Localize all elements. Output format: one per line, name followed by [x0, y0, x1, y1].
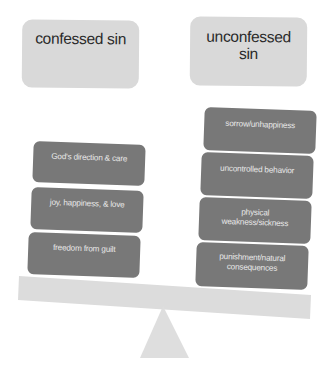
left-item-freedom: freedom from guilt — [27, 232, 140, 278]
unconfessed-sin-header: unconfessed sin — [190, 16, 308, 86]
unconfessed-sin-label: unconfessed sin — [206, 28, 291, 62]
left-item-gods-direction: God's direction & care — [32, 141, 145, 186]
left-item-joy: joy, happiness, & love — [30, 187, 143, 233]
right-item-punishment: punishment/natural consequences — [195, 242, 308, 290]
fulcrum-triangle — [140, 306, 189, 358]
confessed-sin-header: confessed sin — [22, 19, 140, 88]
right-item-uncontrolled: uncontrolled behavior — [200, 152, 313, 199]
confessed-sin-label: confessed sin — [35, 30, 126, 48]
right-item-physical: physical weakness/sickness — [198, 197, 311, 244]
right-item-sorrow: sorrow/unhappiness — [203, 107, 316, 154]
